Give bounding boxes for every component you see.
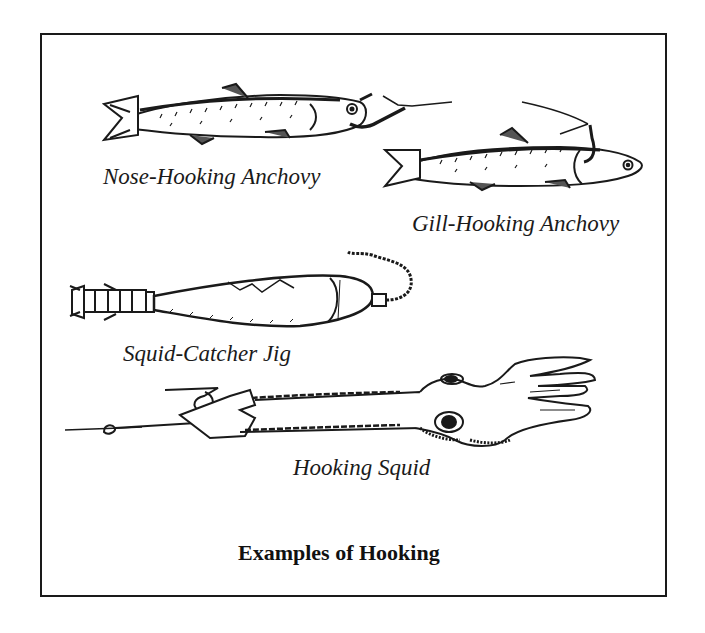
gill-hooked-anchovy-icon (385, 102, 642, 190)
label-hooking-squid: Hooking Squid (293, 455, 430, 481)
squid-jig-icon (70, 252, 411, 326)
label-squid-catcher-jig: Squid-Catcher Jig (123, 341, 291, 367)
label-nose-hooking-anchovy: Nose-Hooking Anchovy (103, 164, 320, 190)
figure-caption: Examples of Hooking (238, 540, 440, 566)
hooked-squid-icon (65, 357, 595, 446)
nose-hooked-anchovy-icon (104, 84, 452, 144)
label-gill-hooking-anchovy: Gill-Hooking Anchovy (412, 211, 619, 237)
illustration-canvas (0, 0, 705, 633)
